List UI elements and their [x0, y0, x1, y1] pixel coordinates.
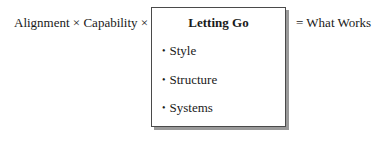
box-item-systems: •Systems: [162, 100, 213, 116]
box-title: Letting Go: [152, 15, 285, 31]
left-expression: Alignment × Capability ×: [14, 15, 148, 31]
box-item-label: Systems: [170, 100, 213, 115]
letting-go-box: Letting Go •Style •Structure •Systems: [151, 7, 286, 127]
box-item-label: Style: [170, 43, 197, 58]
box-item-structure: •Structure: [162, 72, 217, 88]
bullet-icon: •: [162, 102, 166, 113]
right-expression: = What Works: [296, 15, 371, 31]
bullet-icon: •: [162, 45, 166, 56]
bullet-icon: •: [162, 74, 166, 85]
box-item-label: Structure: [170, 72, 218, 87]
box-item-style: •Style: [162, 43, 196, 59]
